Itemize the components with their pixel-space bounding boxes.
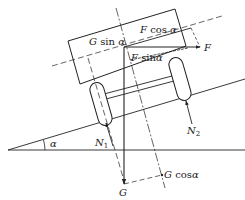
normal-n2-arrow: [186, 101, 192, 124]
vehicle-on-slope-force-diagram: G sin α F cos α F sinα F N1 N2 G G cosα …: [0, 0, 245, 200]
label-f: F: [203, 42, 212, 53]
label-g-cos-alpha: G cosα: [164, 169, 199, 180]
rear-wheel: [167, 56, 193, 102]
f-projection-dashed: [191, 28, 200, 47]
g-cos-point: [161, 174, 163, 176]
label-f-cos-alpha: F cos α: [139, 24, 177, 35]
angle-arc: [44, 140, 46, 150]
label-n1: N1: [94, 137, 108, 150]
label-g: G: [119, 187, 127, 198]
label-alpha: α: [50, 138, 57, 149]
front-wheel-dashed: [88, 58, 125, 184]
label-f-sin-alpha: F sinα: [130, 52, 163, 63]
front-wheel: [88, 81, 114, 127]
label-g-sin-alpha: G sin α: [89, 36, 125, 47]
g-cos-projection-dashed: [124, 175, 162, 184]
label-n2: N2: [186, 125, 200, 138]
axle-top: [104, 76, 172, 94]
slope-line: [8, 79, 245, 150]
